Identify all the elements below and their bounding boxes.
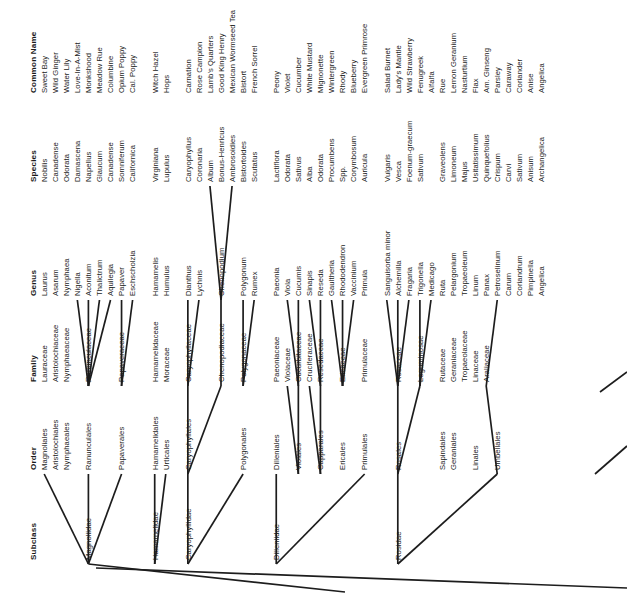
cell-species-19: Scutatus — [251, 152, 259, 182]
cell-order-11: Urticales — [163, 440, 171, 470]
cell-order-32: Rosales — [395, 442, 403, 470]
column-header-subclass: Subclass — [30, 523, 38, 560]
cell-genus-42: Carum — [505, 273, 513, 296]
cell-order-1: Aristolochiales — [52, 420, 60, 470]
cell-genus-1: Asarum — [52, 269, 60, 296]
cell-order-23: Violales — [295, 443, 303, 470]
cell-species-13: Caryophyllus — [185, 137, 193, 182]
cell-genus-25: Reseda — [317, 269, 325, 296]
column-header-species: Species — [30, 150, 38, 182]
cell-subclass-10: Hamamelidae — [152, 512, 160, 560]
cell-species-8: Californica — [129, 145, 137, 182]
cell-common_name-8: Cal. Poppy — [129, 55, 137, 93]
cell-family-23: Cucurbitaceae — [295, 332, 303, 382]
cell-genus-8: Eschscholzia — [129, 250, 137, 296]
cell-common_name-36: Rue — [439, 79, 447, 93]
cell-genus-21: Paeonia — [273, 267, 281, 296]
cell-species-38: Majus — [461, 161, 469, 182]
cell-subclass-13: Caryophyllidae — [185, 508, 193, 560]
tree-link — [188, 474, 243, 564]
cell-family-18: Polygonaceae — [240, 333, 248, 382]
cell-subclass-21: Dilleniidae — [273, 524, 281, 560]
cell-common_name-0: Sweet Bay — [41, 56, 49, 93]
cell-species-1: Canadense — [52, 142, 60, 182]
cell-common_name-26: Wintergreen — [328, 51, 336, 93]
cell-species-5: Glaucum — [96, 151, 104, 182]
cell-common_name-7: Opium Poppy — [118, 46, 126, 93]
cell-genus-2: Nymphaea — [63, 258, 71, 296]
cell-order-21: Dilleniales — [273, 434, 281, 470]
cell-common_name-35: Alfalfa — [428, 71, 436, 93]
cell-common_name-17: Mexican Wormseed Tea — [229, 10, 237, 93]
cell-genus-28: Vaccinium — [350, 261, 358, 296]
cell-family-27: Ericaceae — [339, 347, 347, 382]
cell-genus-29: Primula — [361, 270, 369, 296]
cell-order-37: Geraniales — [450, 432, 458, 470]
cell-order-36: Sapindales — [439, 431, 447, 470]
cell-family-25: Resedaceae — [317, 338, 325, 382]
cell-order-0: Magnoliales — [41, 428, 49, 470]
cell-common_name-21: Peony — [273, 71, 281, 93]
cell-genus-24: Sinapis — [306, 270, 314, 296]
cell-species-14: Coronaria — [196, 148, 204, 182]
cell-species-40: Quinquefolius — [483, 134, 491, 182]
cell-genus-6: Aquilegia — [107, 264, 115, 296]
cell-common_name-3: Love-In-A-Mist — [74, 42, 82, 93]
cell-family-16: Chenopodiaceae — [218, 323, 226, 382]
cell-family-2: Nymphaeaceae — [63, 328, 71, 382]
cell-species-18: Bistortoides — [240, 141, 248, 182]
tree-link — [398, 474, 497, 564]
cell-genus-31: Sanguisorba minor — [384, 231, 392, 296]
cell-genus-39: Linum — [472, 275, 480, 296]
cell-common_name-19: French Sorrel — [251, 46, 259, 93]
cell-genus-4: Aconitum — [85, 264, 93, 296]
cell-genus-0: Laurus — [41, 272, 49, 296]
cell-species-44: Anisum — [527, 156, 535, 182]
tree-link — [88, 474, 121, 564]
cell-common_name-2: Water Lily — [63, 59, 71, 93]
cell-common_name-18: Bistort — [240, 71, 248, 93]
cell-common_name-40: Am. Ginseng — [483, 48, 491, 93]
cell-family-13: Caryophyllaceae — [185, 324, 193, 382]
cell-species-25: Odorata — [317, 154, 325, 182]
cell-common_name-14: Rose Campion — [196, 42, 204, 93]
cell-order-13: Caryophyllales — [185, 419, 193, 470]
cell-order-41: Umbellales — [494, 431, 502, 470]
cell-species-45: Archangelica — [538, 137, 546, 182]
cell-species-36: Graveolens — [439, 142, 447, 182]
tree-link-cropped-right — [595, 446, 627, 474]
cell-family-10: Hamamelidaceae — [152, 322, 160, 383]
cell-species-2: Odorata — [63, 154, 71, 182]
cell-genus-19: Rumex — [251, 271, 259, 296]
cell-genus-11: Humulus — [163, 265, 171, 296]
cell-common_name-34: Fenugreek — [417, 56, 425, 93]
cell-order-25: Capparales — [317, 430, 325, 470]
cell-genus-45: Angelica — [538, 266, 546, 296]
cell-common_name-32: Lady's Mantle — [395, 45, 403, 93]
cell-common_name-38: Nasturtium — [461, 55, 469, 93]
cell-common_name-39: Flax — [472, 78, 480, 93]
cell-order-27: Ericales — [339, 442, 347, 470]
cell-genus-32: Alchemilla — [395, 260, 403, 296]
cell-common_name-43: Coriander — [516, 59, 524, 93]
cell-genus-36: Ruta — [439, 280, 447, 296]
cell-family-11: Moraceae — [163, 347, 171, 382]
cell-species-32: Vesca — [395, 161, 403, 182]
cell-genus-41: Petroselinum — [494, 250, 502, 296]
cell-genus-33: Fragaria — [406, 267, 414, 296]
cell-order-29: Primulales — [361, 434, 369, 470]
cell-order-7: Papaverales — [118, 427, 126, 470]
cell-species-31: Vulgaris — [384, 154, 392, 182]
cell-species-10: Virginiana — [152, 147, 160, 182]
cell-genus-16: Chenopodium — [218, 248, 226, 296]
cell-species-42: Carvi — [505, 164, 513, 182]
cell-species-41: Crispum — [494, 153, 502, 182]
cell-common_name-29: Evergreen Primrose — [361, 24, 369, 93]
cell-species-15: Album — [207, 160, 215, 182]
cell-species-4: Napellus — [85, 152, 93, 182]
cell-common_name-41: Parsley — [494, 67, 502, 93]
cell-family-24: Cruciferaceae — [306, 333, 314, 382]
cell-common_name-27: Rhody — [339, 71, 347, 93]
cell-family-34: Leguminosae — [417, 335, 425, 382]
cell-species-17: Ambrosoidies — [229, 135, 237, 182]
